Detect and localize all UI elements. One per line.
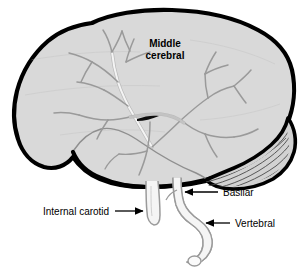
cerebral-artery-diagram: Middle cerebral Basilar Internal carotid… (0, 0, 308, 268)
label-middle-cerebral-line1: Middle (149, 38, 181, 49)
label-basilar: Basilar (223, 187, 254, 198)
label-vertebral: Vertebral (235, 218, 275, 229)
internal-carotid-artery (146, 181, 160, 225)
diagram-canvas: Middle cerebral Basilar Internal carotid… (0, 0, 308, 268)
label-middle-cerebral-line2: cerebral (146, 50, 185, 61)
vertebral-cut-end (188, 256, 201, 266)
internal-carotid-vessel (146, 181, 160, 225)
label-internal-carotid: Internal carotid (43, 206, 109, 217)
